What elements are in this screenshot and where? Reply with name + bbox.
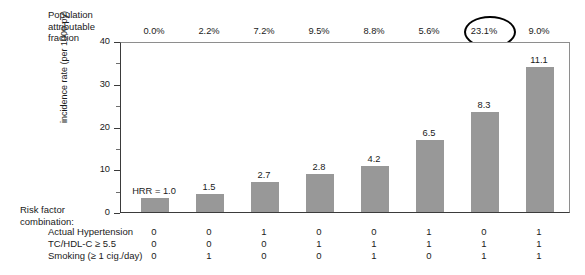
- risk-factor-cell: 1: [299, 238, 339, 249]
- risk-factor-cell: 1: [354, 238, 394, 249]
- y-axis-tick-label: 40: [86, 36, 110, 46]
- paf-value: 2.2%: [181, 26, 237, 36]
- risk-factor-cell: 1: [464, 238, 504, 249]
- paf-value: 5.6%: [401, 26, 457, 36]
- bar: [416, 140, 444, 212]
- bar: [251, 182, 279, 212]
- paf-value: 9.5%: [291, 26, 347, 36]
- risk-factor-cell: 1: [244, 226, 284, 237]
- bar-value-label: 1.5: [179, 182, 239, 192]
- bar-value-label: 6.5: [399, 128, 459, 138]
- risk-factor-cell: 0: [189, 238, 229, 249]
- risk-factor-cell: 0: [354, 226, 394, 237]
- bar-value-label: 4.2: [344, 154, 404, 164]
- paf-caption-line-1: Population: [48, 9, 95, 21]
- risk-factor-cell: 0: [299, 250, 339, 261]
- risk-caption-line-1: Risk factor: [20, 204, 74, 216]
- bar-value-label: 8.3: [454, 100, 514, 110]
- y-axis-tick-label: 10: [86, 164, 110, 174]
- bar: [361, 166, 389, 212]
- bar: [196, 194, 224, 212]
- paf-caption-line-2: attributable: [48, 21, 95, 33]
- risk-factor-cell: 1: [409, 238, 449, 249]
- risk-factor-cell: 0: [134, 226, 174, 237]
- risk-factor-cell: 1: [519, 250, 559, 261]
- bar: [306, 174, 334, 212]
- risk-factor-cell: 0: [134, 238, 174, 249]
- risk-factor-cell: 0: [299, 226, 339, 237]
- figure-root: Population attributable fraction 0.0%2.2…: [0, 0, 585, 275]
- paf-value: 7.2%: [236, 26, 292, 36]
- bar-value-label: 11.1: [509, 55, 569, 65]
- risk-factor-cell: 0: [244, 250, 284, 261]
- bar: [526, 67, 554, 212]
- bar: [471, 112, 499, 212]
- y-axis-tick-label: 30: [86, 79, 110, 89]
- bar: [141, 198, 169, 212]
- bar-value-label: 2.7: [234, 170, 294, 180]
- risk-factor-cell: 0: [409, 250, 449, 261]
- risk-factor-cell: 1: [519, 238, 559, 249]
- y-axis-title: incidence rate (per 1000 py): [59, 0, 69, 147]
- risk-factor-row-label: TC/HDL-C ≥ 5.5: [48, 238, 116, 249]
- paf-value: 0.0%: [126, 26, 182, 36]
- risk-factor-cell: 0: [464, 226, 504, 237]
- paf-value: 9.0%: [511, 26, 567, 36]
- risk-factor-cell: 1: [409, 226, 449, 237]
- y-axis-tick-label: 20: [86, 122, 110, 132]
- risk-factor-cell: 0: [244, 238, 284, 249]
- risk-factor-cell: 1: [189, 250, 229, 261]
- risk-factor-cell: 1: [519, 226, 559, 237]
- risk-factor-row-label: Actual Hypertension: [48, 226, 133, 237]
- risk-factor-cell: 1: [354, 250, 394, 261]
- paf-value: 8.8%: [346, 26, 402, 36]
- bar-value-label: HRR = 1.0: [124, 186, 184, 196]
- risk-factor-row-label: Smoking (≥ 1 cig./day): [48, 250, 142, 261]
- y-axis-tick-label: 0: [86, 207, 110, 217]
- risk-factor-cell: 0: [189, 226, 229, 237]
- risk-factor-cell: 1: [464, 250, 504, 261]
- bar-value-label: 2.8: [289, 162, 349, 172]
- risk-factor-caption: Risk factor combination:: [20, 204, 74, 227]
- risk-factor-cell: 0: [134, 250, 174, 261]
- y-axis-tick: [114, 213, 120, 214]
